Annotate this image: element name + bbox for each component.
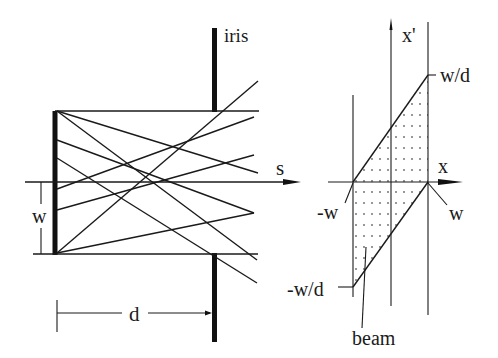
x-axis-label: x [438, 155, 448, 177]
width-dimension: w [32, 182, 47, 254]
x-axis-arrowhead [438, 179, 463, 185]
width-label: w [32, 205, 47, 227]
source-plane [53, 111, 58, 255]
beam-phase-space-diagram: iris s w d [0, 0, 498, 358]
ray-1 [57, 111, 258, 173]
plus-w-label: w [449, 202, 464, 224]
distance-dimension: d [57, 300, 212, 332]
beam-label: beam [352, 327, 396, 349]
iris-upper-blade [212, 28, 217, 112]
s-axis-arrowhead [283, 179, 301, 185]
plus-wd-label: w/d [440, 64, 470, 86]
phase-space-panel: x' x w/d -w/d -w w beam [287, 18, 470, 349]
xp-axis-arrowhead [390, 18, 393, 30]
minus-w-leader [345, 183, 353, 203]
ray-diagram-panel: iris s w d [25, 25, 301, 342]
d-dim-arrowhead [205, 311, 212, 316]
ray-2 [57, 111, 257, 260]
iris-label: iris [224, 25, 248, 46]
distance-label: d [129, 302, 140, 326]
minus-wd-label: -w/d [287, 278, 324, 300]
plus-w-leader [428, 183, 447, 205]
ray-7 [57, 81, 258, 253]
iris-lower-blade [212, 253, 217, 342]
ray-5 [57, 117, 254, 189]
minus-w-label: -w [317, 201, 339, 223]
xp-axis-label: x' [402, 24, 416, 46]
s-axis-label: s [276, 156, 284, 180]
